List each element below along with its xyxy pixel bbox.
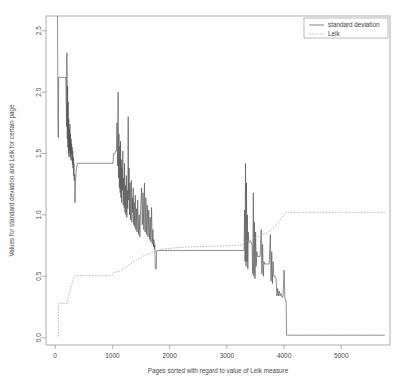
- x-tick-label: 0: [53, 352, 57, 359]
- x-tick-label: 4000: [277, 352, 292, 359]
- y-tick-label: 1.5: [35, 149, 42, 158]
- y-tick-label: 0.5: [35, 271, 42, 280]
- series-standard-deviation: [57, 16, 384, 335]
- x-tick-label: 5000: [334, 352, 349, 359]
- y-tick-label: 0.0: [35, 333, 42, 342]
- series-leik: [58, 212, 385, 336]
- plot-frame: [46, 16, 390, 345]
- x-axis-title: Pages sorted with regard to value of Lei…: [148, 367, 289, 375]
- x-tick-label: 2000: [162, 352, 177, 359]
- series-layer: [57, 16, 384, 336]
- chart-legend: standard deviationLeik: [304, 18, 388, 38]
- x-tick-label: 3000: [220, 352, 235, 359]
- y-tick-label: 1.0: [35, 210, 42, 219]
- chart-svg: 0100020003000400050000.00.51.01.52.02.5 …: [0, 0, 402, 386]
- legend-label-leik: Leik: [328, 30, 340, 37]
- y-axis-title: Values for standard deviation and Leik f…: [8, 104, 16, 257]
- chart-figure: 0100020003000400050000.00.51.01.52.02.5 …: [0, 0, 402, 386]
- legend-label-standard-deviation: standard deviation: [328, 21, 380, 28]
- axes-frame-layer: [46, 16, 390, 345]
- tick-layer: 0100020003000400050000.00.51.01.52.02.5: [35, 26, 349, 359]
- y-tick-label: 2.5: [35, 26, 42, 35]
- x-tick-label: 1000: [105, 352, 120, 359]
- y-tick-label: 2.0: [35, 87, 42, 96]
